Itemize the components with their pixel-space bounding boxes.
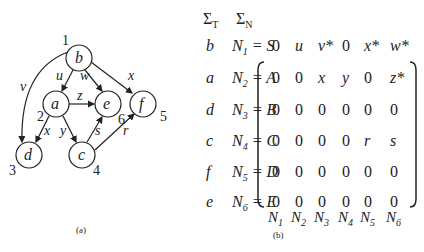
edge-label: z	[77, 88, 82, 104]
terminal-label: f	[206, 163, 210, 181]
matrix-cell: r	[364, 132, 370, 150]
matrix-cell: u	[295, 37, 303, 55]
matrix-cell: 0	[318, 163, 326, 181]
nonterminal-label: N3 = B	[232, 101, 276, 121]
nonterminal-label: N1 = S	[232, 37, 274, 57]
node-number: 3	[9, 163, 16, 179]
right-bracket	[410, 62, 416, 207]
terminal-label: d	[206, 101, 214, 119]
edge-b-a	[62, 70, 73, 91]
column-label: N3	[314, 209, 329, 228]
matrix-cell: 0	[390, 101, 398, 119]
matrix-cell: 0	[390, 163, 398, 181]
matrix-cell: 0	[272, 69, 280, 87]
matrix-cell: 0	[318, 132, 326, 150]
terminal-label: a	[206, 69, 214, 87]
column-label: N2	[291, 209, 306, 228]
edge-label: s	[95, 123, 100, 139]
edge-label: v	[20, 79, 26, 95]
column-label: N5	[360, 209, 375, 228]
header-sigma-t: ΣT	[203, 10, 218, 30]
node-label: d	[24, 146, 32, 164]
node-number: 5	[160, 109, 167, 125]
matrix-cell: 0	[272, 132, 280, 150]
edge-label: u	[56, 68, 63, 84]
node-label: b	[75, 49, 83, 67]
matrix-cell: z*	[390, 69, 404, 87]
matrix-cell: 0	[342, 37, 350, 55]
matrix-cell: 0	[295, 132, 303, 150]
node-label: f	[139, 95, 143, 113]
edge-b-f	[91, 62, 132, 93]
terminal-label: b	[206, 37, 214, 55]
column-label: N1	[268, 209, 283, 228]
matrix-cell: 0	[318, 101, 326, 119]
matrix-cell: 0	[272, 163, 280, 181]
matrix-cell: 0	[295, 69, 303, 87]
matrix-cell: v*	[318, 37, 333, 55]
matrix-cell: 0	[295, 101, 303, 119]
edge-label: x	[44, 123, 50, 139]
node-number: 2	[37, 109, 44, 125]
matrix-cell: 0	[272, 101, 280, 119]
matrix-cell: w*	[390, 37, 409, 55]
node-label: c	[78, 146, 85, 164]
matrix-cell: x	[318, 69, 325, 87]
caption-a: (a)	[76, 225, 86, 235]
header-sigma-n: ΣN	[236, 10, 253, 30]
matrix-cell: 0	[342, 163, 350, 181]
edge-label: w	[80, 68, 89, 84]
node-number: 1	[62, 33, 69, 49]
edge-label: x	[128, 68, 134, 84]
column-label: N6	[386, 209, 401, 228]
terminal-label: e	[206, 193, 213, 211]
matrix-cell: 0	[342, 132, 350, 150]
matrix-cell: y	[342, 69, 349, 87]
nonterminal-label: N2 = A	[232, 69, 276, 89]
matrix-cell: 0	[295, 163, 303, 181]
matrix-cell: 0	[364, 163, 372, 181]
node-number: 4	[93, 163, 100, 179]
matrix-cell: s	[390, 132, 396, 150]
matrix-cell: 0	[342, 101, 350, 119]
nonterminal-label: N4 = C	[232, 132, 277, 152]
matrix-cell: 0	[272, 37, 280, 55]
terminal-label: c	[206, 132, 213, 150]
matrix-cell: x*	[364, 37, 379, 55]
edge-label: y	[60, 123, 66, 139]
node-label: e	[103, 95, 110, 113]
matrix-cell: 0	[364, 69, 372, 87]
matrix-cell: 0	[364, 101, 372, 119]
edge-label: r	[123, 123, 128, 139]
column-label: N4	[338, 209, 353, 228]
node-label: a	[51, 95, 59, 113]
caption-b: (b)	[273, 230, 284, 240]
